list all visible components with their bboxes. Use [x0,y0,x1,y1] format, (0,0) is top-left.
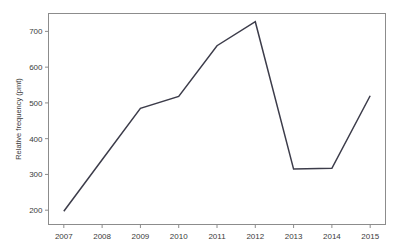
y-axis-title: Relative frequency (pmt) [14,78,23,160]
x-axis-tick-label: 2014 [323,232,341,241]
y-axis-tick-label: 200 [29,206,43,215]
y-axis-tick-label: 700 [29,27,43,36]
chart-figure: 200300400500600700 200720082009201020112… [0,0,400,252]
y-axis-tick-label: 300 [29,170,43,179]
y-axis-tick-label: 500 [29,99,43,108]
chart-background [0,0,400,252]
x-axis-tick-label: 2008 [93,232,111,241]
x-axis-tick-label: 2015 [361,232,379,241]
x-axis-tick-label: 2007 [55,232,73,241]
x-axis-tick-label: 2013 [285,232,303,241]
y-axis-tick-label: 400 [29,135,43,144]
x-axis-tick-label: 2009 [132,232,150,241]
line-chart: 200300400500600700 200720082009201020112… [0,0,400,252]
x-axis-tick-label: 2012 [246,232,264,241]
x-axis-tick-label: 2010 [170,232,188,241]
y-axis-tick-label: 600 [29,63,43,72]
x-axis-tick-label: 2011 [208,232,226,241]
